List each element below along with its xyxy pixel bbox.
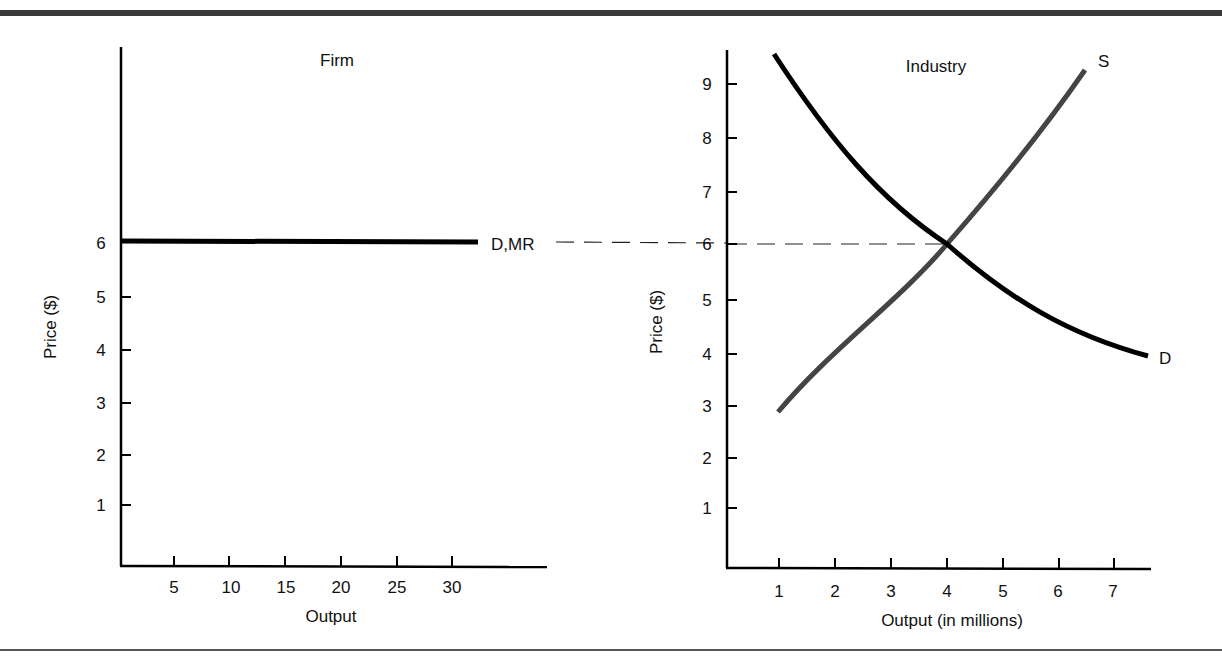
firm-x-tick-label: 20 bbox=[332, 578, 351, 597]
industry-panel: Industry 1 2 3 4 5 6 7 8 9 bbox=[647, 50, 1171, 630]
industry-y-ticks: 1 2 3 4 5 6 7 8 9 bbox=[702, 75, 737, 518]
firm-y-tick-label: 5 bbox=[96, 288, 105, 307]
industry-x-axis bbox=[726, 568, 1151, 569]
firm-x-axis bbox=[120, 566, 547, 567]
firm-title: Firm bbox=[320, 51, 354, 70]
top-rule bbox=[0, 10, 1222, 16]
firm-demand-mr-label: D,MR bbox=[491, 235, 534, 254]
industry-y-tick-label: 8 bbox=[702, 129, 711, 148]
industry-x-tick-label: 7 bbox=[1108, 582, 1117, 601]
firm-y-tick-label: 2 bbox=[96, 446, 105, 465]
industry-x-axis-label: Output (in millions) bbox=[881, 611, 1023, 630]
firm-y-tick-label: 1 bbox=[96, 496, 105, 515]
industry-x-tick-label: 1 bbox=[774, 582, 783, 601]
firm-x-axis-label: Output bbox=[305, 607, 356, 626]
firm-x-tick-label: 15 bbox=[277, 578, 296, 597]
industry-y-tick-label: 2 bbox=[702, 449, 711, 468]
industry-demand-label: D bbox=[1159, 349, 1171, 368]
firm-y-tick-label: 6 bbox=[96, 234, 105, 253]
bottom-rule bbox=[0, 649, 1222, 651]
industry-y-tick-label: 6 bbox=[702, 235, 711, 254]
industry-y-tick-label: 4 bbox=[702, 345, 711, 364]
firm-demand-mr-line bbox=[121, 241, 478, 242]
firm-panel: Firm 1 2 3 4 5 6 5 10 15 2 bbox=[41, 47, 547, 626]
firm-x-tick-label: 5 bbox=[169, 578, 178, 597]
industry-x-tick-label: 2 bbox=[830, 582, 839, 601]
firm-y-tick-label: 4 bbox=[96, 341, 105, 360]
industry-x-tick-label: 4 bbox=[942, 582, 951, 601]
firm-y-tick-label: 3 bbox=[96, 394, 105, 413]
firm-x-ticks: 5 10 15 20 25 30 bbox=[169, 556, 461, 597]
industry-title: Industry bbox=[906, 57, 967, 76]
industry-x-tick-label: 5 bbox=[998, 582, 1007, 601]
industry-supply-label: S bbox=[1098, 52, 1109, 71]
industry-demand-curve bbox=[774, 54, 1148, 356]
firm-x-tick-label: 10 bbox=[222, 578, 241, 597]
industry-y-tick-label: 7 bbox=[702, 183, 711, 202]
industry-y-tick-label: 3 bbox=[702, 397, 711, 416]
industry-x-tick-label: 6 bbox=[1053, 582, 1062, 601]
firm-x-tick-label: 30 bbox=[443, 578, 462, 597]
industry-y-axis-label: Price ($) bbox=[647, 290, 666, 354]
industry-x-ticks: 1 2 3 4 5 6 7 bbox=[774, 558, 1117, 601]
equilibrium-price-dashed-line bbox=[556, 242, 945, 244]
industry-y-tick-label: 1 bbox=[702, 499, 711, 518]
industry-x-tick-label: 3 bbox=[886, 582, 895, 601]
firm-y-ticks: 1 2 3 4 5 6 bbox=[96, 234, 131, 515]
firm-y-axis-label: Price ($) bbox=[41, 295, 60, 359]
chart-canvas: Firm 1 2 3 4 5 6 5 10 15 2 bbox=[0, 0, 1222, 669]
firm-x-tick-label: 25 bbox=[388, 578, 407, 597]
industry-y-tick-label: 9 bbox=[702, 75, 711, 94]
industry-y-tick-label: 5 bbox=[702, 291, 711, 310]
